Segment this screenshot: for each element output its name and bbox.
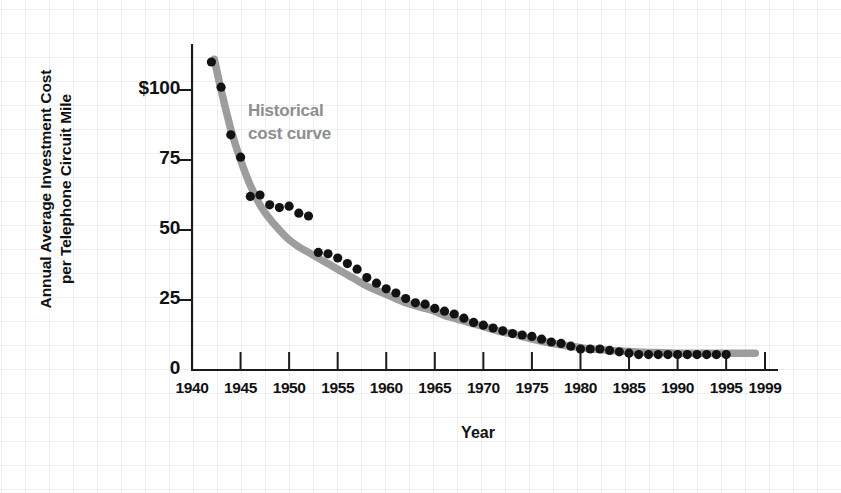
x-axis-title: Year xyxy=(398,424,558,442)
chart-figure: Annual Average Investment Cost per Telep… xyxy=(0,0,841,493)
curve-annotation-line1: Historical xyxy=(248,101,323,120)
x-tick-labels: 1940194519501955196019651970197519801985… xyxy=(0,0,841,493)
curve-annotation: Historical cost curve xyxy=(248,100,408,146)
curve-annotation-line2: cost curve xyxy=(248,124,331,143)
x-tick-label: 1999 xyxy=(730,379,800,397)
